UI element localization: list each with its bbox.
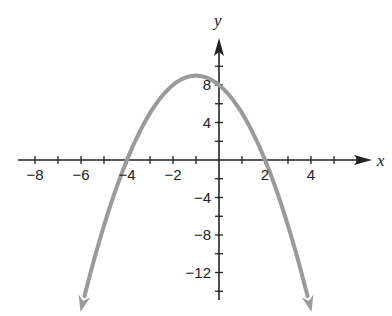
x-tick-label: −4: [118, 166, 135, 183]
y-tick-label: 8: [203, 76, 211, 93]
y-tick-label: −12: [186, 264, 211, 281]
x-tick-label: 2: [261, 166, 269, 183]
x-tick-label: −2: [164, 166, 181, 183]
x-tick-label: 4: [307, 166, 315, 183]
y-axis-label: y: [212, 11, 222, 30]
tick-labels: −8−6−4−22484−4−8−12xy: [26, 11, 385, 281]
parabola-chart: −8−6−4−22484−4−8−12xy: [0, 0, 392, 316]
x-axis-label: x: [376, 151, 385, 170]
x-tick-label: −8: [26, 166, 43, 183]
y-tick-label: −8: [194, 226, 211, 243]
x-tick-label: −6: [72, 166, 89, 183]
y-tick-label: 4: [203, 114, 211, 131]
y-tick-label: −4: [194, 189, 211, 206]
